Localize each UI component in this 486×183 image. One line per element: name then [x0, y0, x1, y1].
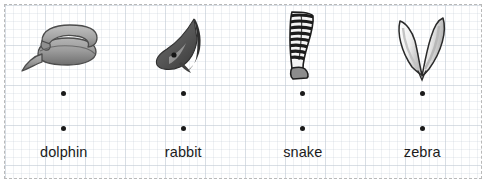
- match-column-1: dolphin: [4, 4, 124, 179]
- connector-dot-top[interactable]: [61, 91, 66, 96]
- match-column-3: snake: [243, 4, 363, 179]
- connector-dot-bottom[interactable]: [420, 126, 425, 131]
- matching-columns: dolphin: [4, 4, 482, 179]
- word-label[interactable]: zebra: [404, 145, 441, 160]
- connector-dot-bottom[interactable]: [300, 126, 305, 131]
- worksheet-matching-activity: dolphin: [0, 0, 486, 183]
- connector-dot-top[interactable]: [181, 91, 186, 96]
- connector-dot-top[interactable]: [300, 91, 305, 96]
- match-column-4: zebra: [363, 4, 483, 179]
- match-column-2: rabbit: [124, 4, 244, 179]
- rabbit-ears-image[interactable]: [363, 4, 483, 88]
- connector-dot-top[interactable]: [420, 91, 425, 96]
- connector-dot-bottom[interactable]: [181, 126, 186, 131]
- zebra-leg-image[interactable]: [243, 4, 363, 88]
- word-label[interactable]: rabbit: [165, 145, 202, 160]
- coiled-snake-image[interactable]: [4, 4, 124, 88]
- dolphin-image[interactable]: [124, 4, 244, 88]
- word-label[interactable]: snake: [283, 145, 322, 160]
- word-label[interactable]: dolphin: [40, 145, 87, 160]
- connector-dot-bottom[interactable]: [61, 126, 66, 131]
